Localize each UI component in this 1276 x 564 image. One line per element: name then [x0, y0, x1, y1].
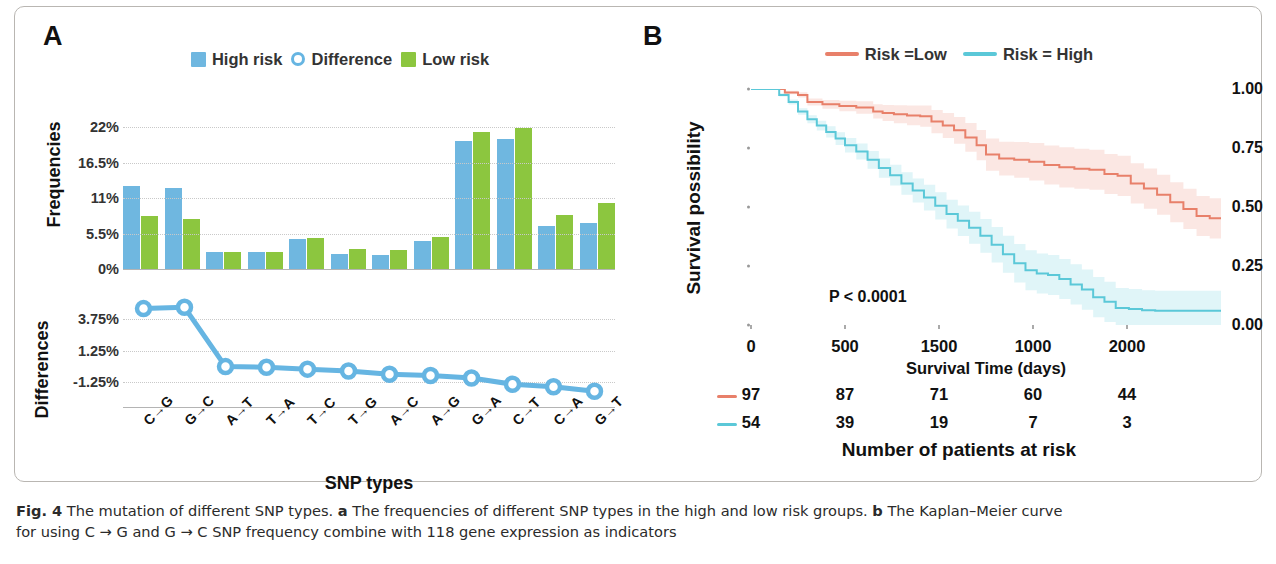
differences-y-tick: 3.75%: [78, 311, 119, 327]
survival-time-axis-title: Survival Time (days): [751, 359, 1221, 378]
risk-count: 54: [742, 413, 760, 432]
survival-y-tickmark: [747, 88, 750, 91]
bar-low-risk[interactable]: [598, 203, 615, 269]
survival-time-tick: 2000: [1109, 337, 1146, 356]
bar-low-risk[interactable]: [141, 216, 158, 269]
bar-high-risk[interactable]: [580, 223, 597, 269]
low-risk-swatch-icon: [401, 52, 416, 67]
figure-caption: Fig. 4 The mutation of different SNP typ…: [16, 500, 1266, 542]
difference-point[interactable]: [178, 301, 191, 314]
legend-item-risk-low[interactable]: Risk =Low: [825, 45, 947, 64]
bar-group: [289, 111, 324, 269]
frequencies-baseline: [123, 269, 615, 270]
legend-label-risk-high: Risk = High: [1003, 45, 1093, 64]
difference-point[interactable]: [547, 380, 560, 393]
differences-line-chart: [123, 301, 615, 407]
survival-time-tickmark: [1126, 325, 1128, 329]
difference-point[interactable]: [506, 378, 519, 391]
legend-item-low-risk[interactable]: Low risk: [401, 50, 489, 69]
caption-fig-number: Fig. 4: [16, 502, 62, 519]
panel-b-legend: Risk =Low Risk = High: [669, 41, 1249, 67]
difference-point[interactable]: [588, 385, 601, 398]
bar-low-risk[interactable]: [556, 215, 573, 269]
bar-low-risk[interactable]: [183, 219, 200, 269]
differences-y-axis: -1.25%1.25%3.75%: [53, 301, 119, 407]
differences-y-tick: 1.25%: [78, 343, 119, 359]
survival-time-tickmark: [750, 325, 752, 329]
bar-low-risk[interactable]: [390, 250, 407, 269]
risk-row-line-icon: [717, 423, 737, 426]
risk-count: 19: [930, 413, 948, 432]
difference-circle-icon: [291, 52, 305, 66]
difference-point[interactable]: [342, 365, 355, 378]
bar-group: [206, 111, 241, 269]
legend-item-difference[interactable]: Difference: [291, 50, 392, 69]
bar-low-risk[interactable]: [349, 249, 366, 269]
bar-low-risk[interactable]: [473, 132, 490, 269]
legend-label-high-risk: High risk: [212, 50, 283, 69]
bar-high-risk[interactable]: [497, 139, 514, 269]
survival-y-tick: 0.75: [1232, 139, 1263, 157]
survival-y-tickmark: [747, 265, 750, 268]
differences-axis-title: Differences: [32, 305, 53, 435]
bar-group: [372, 111, 407, 269]
survival-y-tickmark: [747, 206, 750, 209]
caption-second-line: for using C → G and G → C SNP frequency …: [16, 521, 1266, 542]
frequencies-gridline: [123, 198, 615, 199]
survival-y-tick: 0.25: [1232, 257, 1263, 275]
risk-count: 87: [836, 385, 854, 404]
bar-group: [123, 111, 158, 269]
risk-count: 60: [1024, 385, 1042, 404]
bar-low-risk[interactable]: [266, 252, 283, 269]
frequencies-y-tick: 0%: [98, 261, 119, 277]
bar-group: [331, 111, 366, 269]
bar-high-risk[interactable]: [331, 254, 348, 269]
panel-a-letter: A: [43, 21, 63, 52]
risk-count: 71: [930, 385, 948, 404]
bar-high-risk[interactable]: [372, 255, 389, 269]
bar-high-risk[interactable]: [165, 188, 182, 269]
bar-group: [414, 111, 449, 269]
legend-label-difference: Difference: [311, 50, 392, 69]
bar-high-risk[interactable]: [289, 239, 306, 269]
difference-point[interactable]: [301, 363, 314, 376]
legend-item-high-risk[interactable]: High risk: [191, 50, 283, 69]
bar-high-risk[interactable]: [248, 252, 265, 269]
survival-time-tickmark: [1032, 325, 1034, 329]
confidence-band: [751, 89, 1221, 238]
differences-y-tick: -1.25%: [73, 374, 119, 390]
difference-point[interactable]: [424, 369, 437, 382]
risk-table-row: 9787716044: [639, 385, 1263, 407]
bar-high-risk[interactable]: [455, 141, 472, 269]
kaplan-meier-chart: [751, 89, 1221, 325]
snp-type-tick-labels: C→GG→CA→TT→AT→CT→GA→CA→GG→AC→TC→AG→T: [123, 411, 615, 469]
difference-point[interactable]: [219, 360, 232, 373]
risk-count: 44: [1118, 385, 1136, 404]
risk-table-title: Number of patients at risk: [669, 439, 1249, 461]
bar-high-risk[interactable]: [206, 252, 223, 269]
frequencies-y-tick: 11%: [91, 190, 119, 206]
bar-high-risk[interactable]: [414, 241, 431, 269]
difference-point[interactable]: [465, 371, 478, 384]
survival-y-tick: 0.00: [1232, 316, 1263, 334]
risk-low-line-icon: [825, 52, 859, 56]
risk-count: 39: [836, 413, 854, 432]
bar-group: [497, 111, 532, 269]
risk-count: 7: [1028, 413, 1037, 432]
bar-low-risk[interactable]: [307, 238, 324, 269]
legend-label-risk-low: Risk =Low: [865, 45, 947, 64]
bar-low-risk[interactable]: [432, 237, 449, 269]
survival-time-tickmark: [938, 325, 940, 329]
legend-item-risk-high[interactable]: Risk = High: [963, 45, 1093, 64]
high-risk-swatch-icon: [191, 52, 206, 67]
bar-group: [455, 111, 490, 269]
risk-table-row: 54391973: [639, 413, 1263, 435]
panel-a-legend: High risk Difference Low risk: [175, 47, 505, 71]
difference-point[interactable]: [383, 368, 396, 381]
frequencies-gridline: [123, 127, 615, 128]
difference-point[interactable]: [260, 361, 273, 374]
caption-text-b: The Kaplan–Meier curve: [883, 502, 1063, 519]
difference-point[interactable]: [137, 302, 150, 315]
frequencies-y-tick: 16.5%: [78, 155, 119, 171]
bar-low-risk[interactable]: [224, 252, 241, 269]
